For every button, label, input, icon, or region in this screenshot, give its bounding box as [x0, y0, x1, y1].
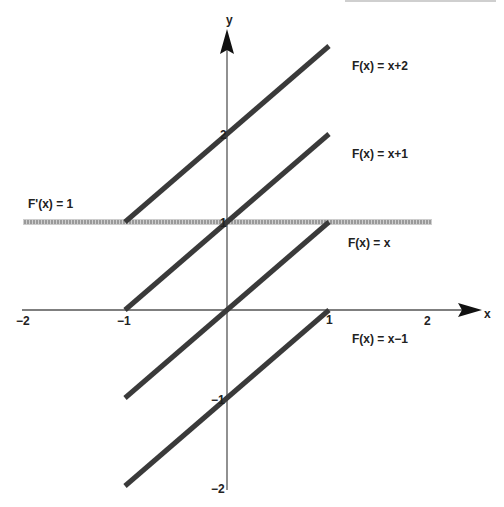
y-axis-label: y	[226, 13, 233, 27]
y-tick-neg2: −2	[211, 482, 225, 496]
y-tick-1: 1	[220, 216, 227, 230]
derivative-diagram: F(x) = x+2 F(x) = x+1 F(x) = x F(x) = x−…	[0, 0, 504, 507]
label-f-x: F(x) = x	[348, 236, 391, 250]
x-tick-1: 1	[326, 313, 333, 327]
x-tick-2: 2	[424, 314, 431, 328]
y-tick-neg1: −1	[211, 393, 225, 407]
x-tick-neg1: −1	[117, 314, 131, 328]
x-axis-label: x	[484, 307, 491, 321]
label-f-x-plus-1: F(x) = x+1	[352, 147, 408, 161]
y-tick-2: 2	[220, 128, 227, 142]
label-f-x-plus-2: F(x) = x+2	[352, 59, 408, 73]
label-f-x-minus-1: F(x) = x−1	[352, 332, 408, 346]
label-f-prime: F'(x) = 1	[28, 197, 74, 211]
x-tick-neg2: −2	[16, 314, 30, 328]
